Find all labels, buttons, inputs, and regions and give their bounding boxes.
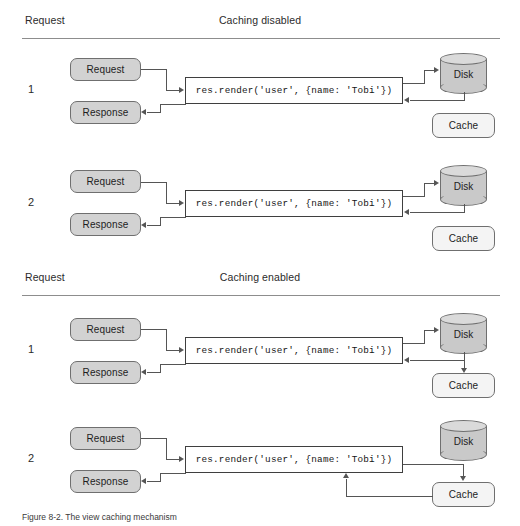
connector-request-to-code-v	[166, 329, 167, 350]
response-box[interactable]: Response	[70, 470, 141, 493]
connector-request-to-code-v	[166, 182, 167, 203]
connector-code-to-disk-h1	[403, 343, 425, 344]
request-box[interactable]: Request	[70, 318, 141, 341]
connector-request-to-code-v	[166, 69, 167, 90]
row-number: 1	[22, 343, 40, 355]
arrow-request-to-code	[179, 347, 184, 353]
connector-cache-to-code-h	[346, 496, 433, 497]
row-number: 1	[22, 83, 40, 95]
response-label: Response	[83, 367, 129, 378]
connector-disk-to-code-h	[410, 100, 465, 101]
connector-code-to-response-h1	[160, 364, 186, 365]
connector-request-to-code-h2	[166, 90, 180, 91]
disk-label: Disk	[440, 435, 487, 446]
arrow-request-to-code	[179, 456, 184, 462]
disk-label: Disk	[440, 180, 487, 191]
request-label: Request	[87, 176, 125, 187]
section-header-caching-disabled: Request Caching disabled	[0, 14, 520, 44]
connector-code-to-disk-h1	[403, 83, 425, 84]
disk-label: Disk	[440, 328, 487, 339]
connector-disk-to-code-h	[410, 212, 465, 213]
code-text: res.render('user', {name: 'Tobi'})	[196, 454, 393, 465]
connector-code-to-response-h2	[147, 112, 161, 113]
connector-code-to-disk-v	[424, 183, 425, 197]
arrow-code-to-disk	[434, 180, 439, 186]
diagram-canvas: Request Caching disabled 1 Request Respo…	[0, 0, 520, 526]
row-number: 2	[22, 196, 40, 208]
disk-top-ellipse	[440, 313, 487, 325]
connector-code-to-disk-v	[424, 330, 425, 344]
arrow-code-to-response	[141, 478, 146, 484]
disk-bottom-ellipse	[440, 448, 487, 461]
code-box[interactable]: res.render('user', {name: 'Tobi'})	[185, 190, 403, 217]
connector-code-to-response-h1	[160, 217, 186, 218]
arrow-code-to-cache	[460, 476, 466, 481]
connector-request-to-code-h1	[141, 329, 167, 330]
cache-label: Cache	[449, 233, 478, 244]
connector-request-to-code-h1	[141, 69, 167, 70]
connector-code-to-response-h2	[147, 481, 161, 482]
connector-request-to-code-h2	[166, 203, 180, 204]
disk-cylinder[interactable]: Disk	[440, 165, 487, 206]
connector-code-to-cache-h	[403, 464, 464, 465]
code-text: res.render('user', {name: 'Tobi'})	[196, 345, 393, 356]
code-text: res.render('user', {name: 'Tobi'})	[196, 198, 393, 209]
connector-request-to-code-h2	[166, 459, 180, 460]
arrow-code-to-response	[141, 109, 146, 115]
section-title-enabled: Caching enabled	[0, 271, 520, 283]
disk-cylinder[interactable]: Disk	[440, 53, 487, 94]
request-box[interactable]: Request	[70, 58, 141, 81]
arrow-disk-to-code	[404, 357, 409, 363]
response-label: Response	[83, 107, 129, 118]
disk-top-ellipse	[440, 53, 487, 65]
response-label: Response	[83, 219, 129, 230]
response-box[interactable]: Response	[70, 101, 141, 124]
cache-box[interactable]: Cache	[432, 113, 495, 138]
request-box[interactable]: Request	[70, 427, 141, 450]
connector-request-to-code-h1	[141, 438, 167, 439]
arrow-code-to-response	[141, 222, 146, 228]
disk-top-ellipse	[440, 420, 487, 432]
connector-code-to-response-h2	[147, 225, 161, 226]
section-rule-disabled	[22, 38, 500, 39]
request-box[interactable]: Request	[70, 170, 141, 193]
cache-box[interactable]: Cache	[432, 482, 495, 507]
arrow-request-to-code	[179, 200, 184, 206]
response-box[interactable]: Response	[70, 213, 141, 236]
code-text: res.render('user', {name: 'Tobi'})	[196, 85, 393, 96]
cache-label: Cache	[449, 120, 478, 131]
section-title-disabled: Caching disabled	[0, 14, 520, 26]
section-rule-enabled	[22, 295, 500, 296]
figure-caption: Figure 8-2. The view caching mechanism	[22, 512, 177, 524]
connector-code-to-disk-h1	[403, 196, 425, 197]
disk-cylinder[interactable]: Disk	[440, 420, 487, 461]
cache-box[interactable]: Cache	[432, 373, 495, 398]
arrow-disk-to-code	[404, 209, 409, 215]
row-number: 2	[22, 452, 40, 464]
connector-code-to-response-h1	[160, 473, 186, 474]
code-box[interactable]: res.render('user', {name: 'Tobi'})	[185, 446, 403, 473]
connector-code-to-disk-v	[424, 70, 425, 84]
connector-request-to-code-h1	[141, 182, 167, 183]
arrow-disk-to-cache	[461, 368, 467, 373]
cache-box[interactable]: Cache	[432, 226, 495, 251]
connector-request-to-code-h2	[166, 350, 180, 351]
cache-label: Cache	[449, 489, 478, 500]
arrow-code-to-disk	[434, 67, 439, 73]
disk-cylinder[interactable]: Disk	[440, 313, 487, 354]
request-label: Request	[87, 324, 125, 335]
connector-cache-to-code-v	[346, 479, 347, 497]
connector-request-to-code-v	[166, 438, 167, 459]
disk-top-ellipse	[440, 165, 487, 177]
code-box[interactable]: res.render('user', {name: 'Tobi'})	[185, 337, 403, 364]
request-label: Request	[87, 64, 125, 75]
code-box[interactable]: res.render('user', {name: 'Tobi'})	[185, 77, 403, 104]
arrow-code-to-response	[141, 369, 146, 375]
connector-code-to-response-h2	[147, 372, 161, 373]
disk-label: Disk	[440, 68, 487, 79]
arrow-request-to-code	[179, 87, 184, 93]
connector-code-to-response-h1	[160, 104, 186, 105]
arrow-disk-to-code	[404, 97, 409, 103]
response-box[interactable]: Response	[70, 361, 141, 384]
arrow-cache-to-code	[343, 473, 349, 478]
